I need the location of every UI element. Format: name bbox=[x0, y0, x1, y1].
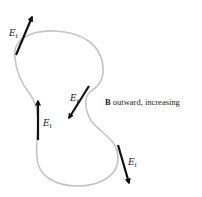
vector-label: Et bbox=[8, 28, 19, 39]
arrow-icon bbox=[16, 17, 32, 55]
vector-label: Et bbox=[42, 118, 53, 129]
closed-loop-curve bbox=[15, 31, 118, 186]
field-loop-diagram: Et Et Et Et B outward, increasing bbox=[0, 0, 202, 197]
electric-field-vector-middle-left: Et bbox=[38, 101, 53, 140]
magnetic-field-caption: B outward, increasing bbox=[105, 97, 181, 107]
vector-label: Et bbox=[69, 93, 80, 104]
electric-field-vector-bottom-right: Et bbox=[118, 145, 138, 183]
vector-label: Et bbox=[127, 157, 138, 168]
